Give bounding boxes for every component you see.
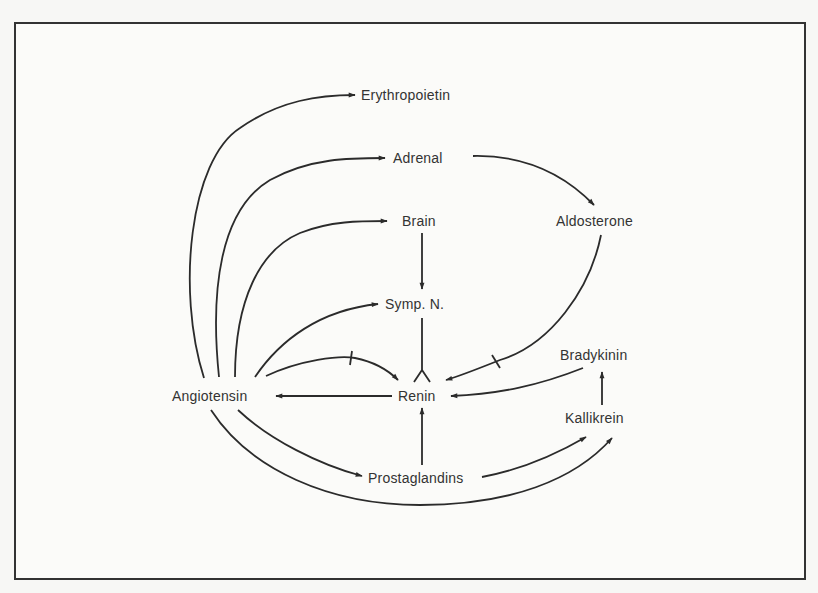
node-erythropoietin: Erythropoietin — [361, 87, 450, 103]
node-renin: Renin — [398, 388, 436, 404]
edge-adrenal-aldosterone — [473, 156, 594, 205]
node-symp-n: Symp. N. — [385, 296, 444, 312]
edge-angiotensin-adrenal — [216, 158, 385, 377]
inhibit-mark-angiotensin-renin — [350, 351, 352, 365]
node-kallikrein: Kallikrein — [565, 410, 624, 426]
edge-angiotensin-renin-inhibit — [266, 357, 398, 380]
edge-angiotensin-erythropoietin — [190, 95, 355, 378]
node-adrenal: Adrenal — [393, 150, 443, 166]
edge-angiotensin-prostaglandins — [238, 410, 362, 476]
node-angiotensin: Angiotensin — [172, 388, 247, 404]
node-brain: Brain — [402, 213, 436, 229]
inhibit-mark-aldosterone-renin — [492, 355, 500, 368]
node-prostaglandins: Prostaglandins — [368, 470, 463, 486]
node-bradykinin: Bradykinin — [560, 347, 627, 363]
edge-sympn-renin — [414, 318, 430, 382]
node-aldosterone: Aldosterone — [556, 213, 633, 229]
edge-angiotensin-kallikrein — [211, 410, 612, 505]
edge-angiotensin-sympn — [255, 304, 378, 377]
edge-angiotensin-brain — [235, 221, 387, 377]
